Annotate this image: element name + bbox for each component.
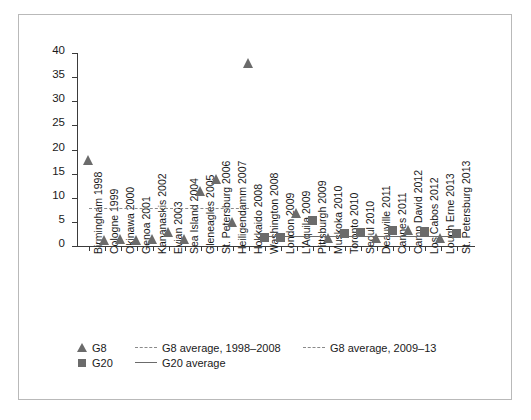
- x-tick: [169, 246, 170, 251]
- x-axis-label: Toronto 2010: [349, 193, 360, 254]
- y-tick-label: 10: [52, 190, 65, 202]
- y-tick-label: 5: [59, 214, 65, 226]
- y-tick-label: 15: [52, 166, 65, 178]
- x-tick: [297, 246, 298, 251]
- x-tick: [121, 246, 122, 251]
- x-tick: [89, 246, 90, 251]
- y-tick: 40: [72, 53, 77, 54]
- legend-item-g20: G20: [77, 356, 135, 370]
- x-tick: [377, 246, 378, 251]
- x-tick: [137, 246, 138, 251]
- y-tick: 20: [72, 150, 77, 151]
- data-point-g8: [243, 58, 253, 68]
- x-tick: [329, 246, 330, 251]
- data-point-g20: [420, 227, 429, 236]
- data-point-g8: [435, 233, 445, 243]
- legend-item-g20-average: G20 average: [135, 356, 303, 370]
- y-tick-label: 20: [52, 142, 65, 154]
- x-tick: [105, 246, 106, 251]
- x-tick: [345, 246, 346, 251]
- x-axis-label: Heiligendamm 2007: [237, 161, 248, 254]
- dashed-line-icon: [303, 347, 325, 348]
- x-axis-label: Camp David 2012: [413, 170, 424, 254]
- x-tick: [425, 246, 426, 251]
- dashed-line-icon: [135, 347, 157, 348]
- y-tick-label: 25: [52, 117, 65, 129]
- data-point-g8: [179, 234, 189, 244]
- x-axis-label: Hokkaido 2008: [253, 184, 264, 254]
- y-tick-label: 0: [59, 238, 65, 250]
- x-axis-label: Genoa 2001: [141, 196, 152, 254]
- x-axis-label: Cannes 2011: [397, 192, 408, 254]
- legend-row-1: G8 G8 average, 1998–2008 G8 average, 200…: [77, 340, 497, 355]
- legend-row-2: G20 G20 average: [77, 355, 497, 370]
- data-point-g8: [147, 234, 157, 244]
- x-tick: [457, 246, 458, 251]
- y-tick: 30: [72, 101, 77, 102]
- data-point-g8: [403, 225, 413, 235]
- x-axis-label: Washington 2008: [269, 173, 280, 254]
- x-tick: [361, 246, 362, 251]
- data-point-g20: [308, 216, 317, 225]
- y-axis-line: [77, 53, 78, 246]
- x-axis-label: Deauville 2011: [381, 185, 392, 254]
- data-point-g8: [115, 234, 125, 244]
- x-axis-label: St. Petersburg 2006: [221, 161, 232, 254]
- legend-label-g8: G8: [92, 341, 107, 355]
- x-axis-label: London 2009: [285, 193, 296, 254]
- figure-frame: 0510152025303540 Birmingham 1998Cologne …: [18, 14, 512, 400]
- x-tick: [409, 246, 410, 251]
- x-axis-label: Seoul 2010: [365, 201, 376, 254]
- x-axis-label: Lough Erne 2013: [445, 173, 456, 254]
- x-axis-label: Gleneagles 2005: [205, 175, 216, 254]
- solid-line-icon: [135, 362, 157, 363]
- average-line: [89, 208, 249, 209]
- triangle-marker-icon: [77, 343, 87, 352]
- data-point-g8: [227, 217, 237, 227]
- square-marker-icon: [78, 359, 86, 367]
- y-tick: 10: [72, 198, 77, 199]
- data-point-g20: [388, 226, 397, 235]
- data-point-g8: [211, 174, 221, 184]
- data-point-g8: [291, 208, 301, 218]
- x-tick: [265, 246, 266, 251]
- data-point-g20: [356, 228, 365, 237]
- y-tick-label: 35: [52, 69, 65, 81]
- data-point-g20: [276, 233, 285, 242]
- y-tick-label: 30: [52, 93, 65, 105]
- x-tick: [217, 246, 218, 251]
- x-axis-label: Muskoka 2010: [333, 186, 344, 254]
- data-point-g20: [452, 229, 461, 238]
- data-point-g8: [163, 227, 173, 237]
- y-tick: 15: [72, 174, 77, 175]
- data-point-g8: [131, 235, 141, 245]
- data-point-g8: [323, 233, 333, 243]
- y-tick: 0: [72, 246, 77, 247]
- plot-area: 0510152025303540 Birmingham 1998Cologne …: [77, 53, 475, 246]
- legend-label-g20: G20: [92, 356, 113, 370]
- y-tick: 5: [72, 222, 77, 223]
- x-tick: [393, 246, 394, 251]
- x-tick: [233, 246, 234, 251]
- x-tick: [201, 246, 202, 251]
- data-point-g20: [340, 229, 349, 238]
- y-tick: 25: [72, 125, 77, 126]
- legend-item-g8-average-2009-13: G8 average, 2009–13: [303, 341, 436, 355]
- data-point-g8: [371, 233, 381, 243]
- y-tick: 35: [72, 77, 77, 78]
- x-tick: [281, 246, 282, 251]
- x-axis-label: Kananaskis 2002: [157, 173, 168, 254]
- legend-item-g8-average-1998-2008: G8 average, 1998–2008: [135, 341, 303, 355]
- x-tick: [249, 246, 250, 251]
- x-tick: [185, 246, 186, 251]
- data-point-g8: [195, 186, 205, 196]
- legend-label-g8-average-2009-13: G8 average, 2009–13: [330, 341, 436, 355]
- data-point-g20: [260, 233, 269, 242]
- legend-label-g8-average-1998-2008: G8 average, 1998–2008: [162, 341, 281, 355]
- x-axis-label: Cologne 1999: [109, 189, 120, 254]
- chart-legend: G8 G8 average, 1998–2008 G8 average, 200…: [77, 340, 497, 370]
- x-tick: [441, 246, 442, 251]
- x-axis-label: St. Petersburg 2013: [461, 161, 472, 254]
- x-tick: [313, 246, 314, 251]
- legend-label-g20-average: G20 average: [162, 356, 226, 370]
